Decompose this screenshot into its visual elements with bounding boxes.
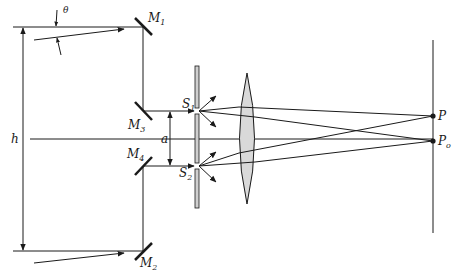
- label-M1: M1: [148, 12, 165, 27]
- label-P: P: [438, 110, 446, 122]
- incoming-oblique-ray-bottom: [34, 253, 124, 263]
- label-S2: S2: [179, 167, 192, 182]
- point-P: [430, 113, 435, 118]
- label-M2: M2: [140, 257, 157, 272]
- point-Po: [430, 138, 435, 143]
- label-a: a: [161, 133, 168, 145]
- label-M3: M3: [128, 119, 145, 134]
- label-S1: S1: [182, 98, 195, 113]
- converging-lens: [240, 73, 255, 204]
- ray-S2-to-P: [199, 116, 433, 166]
- label-M4: M4: [127, 148, 144, 163]
- ray-S1-to-Po: [199, 111, 433, 141]
- incoming-oblique-ray-top: [34, 29, 124, 40]
- theta-label: θ: [63, 6, 68, 15]
- ray-S2-to-Po: [199, 141, 433, 166]
- theta-arrow-bottom: [57, 38, 61, 55]
- theta-arrow-top: [56, 10, 57, 26]
- s1-diffract-down: [199, 111, 216, 127]
- label-Po: Po: [438, 135, 451, 150]
- s2-diffract-up: [199, 152, 216, 166]
- s1-diffract-up: [199, 96, 216, 111]
- label-h: h: [11, 133, 19, 145]
- s2-diffract-down: [199, 166, 216, 182]
- interferometer-diagram: [0, 0, 457, 278]
- double-slit-plate: [195, 66, 199, 208]
